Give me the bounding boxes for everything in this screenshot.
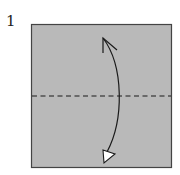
- origami-diagram: [0, 0, 180, 175]
